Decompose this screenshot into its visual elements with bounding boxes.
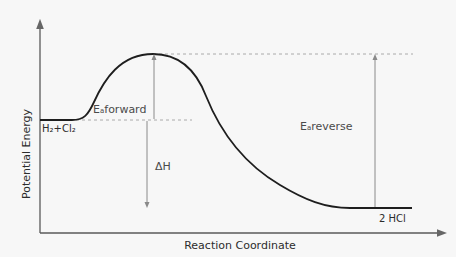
products-label: 2 HCl	[379, 213, 406, 224]
energy-curve	[40, 54, 412, 208]
delta-h-label: ΔH	[155, 160, 171, 173]
y-axis-title: Potential Energy	[20, 108, 33, 199]
ea-forward-label: Eₐforward	[93, 103, 146, 116]
ea-reverse-label: Eₐreverse	[300, 120, 353, 133]
energy-diagram: Eₐforward H₂+Cl₂ ΔH Eₐreverse 2 HCl Pote…	[0, 0, 456, 257]
x-axis-title: Reaction Coordinate	[184, 239, 296, 252]
reactants-label: H₂+Cl₂	[42, 123, 76, 134]
